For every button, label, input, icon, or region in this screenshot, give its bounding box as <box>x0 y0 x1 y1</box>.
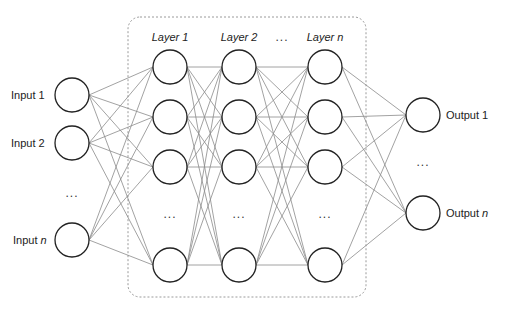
layers-ellipsis: ... <box>275 32 288 42</box>
input-node <box>55 223 89 257</box>
hidden-node-layer-3 <box>308 100 342 134</box>
output-label-n: Output n <box>446 207 488 219</box>
hidden-node-layer-3 <box>308 50 342 84</box>
hidden-node-layer-1 <box>153 50 187 84</box>
layer-label-1: Layer 1 <box>152 31 189 43</box>
connection-edge <box>342 67 406 115</box>
connection-edge <box>342 115 406 167</box>
inputs-ellipsis: ... <box>65 188 78 198</box>
layern-ellipsis: ... <box>318 209 331 219</box>
layer1-ellipsis: ... <box>163 209 176 219</box>
input-node <box>55 126 89 160</box>
input-node <box>55 78 89 112</box>
hidden-node-layer-3 <box>308 248 342 282</box>
connection-edge <box>89 67 153 95</box>
connection-edge <box>89 143 153 167</box>
output-label-1: Output 1 <box>446 109 488 121</box>
output-node <box>406 196 440 230</box>
neural-network-diagram: Input 1 Input 2 Input n ... Layer 1 Laye… <box>0 0 505 309</box>
connection-edge <box>342 67 406 213</box>
connection-edge <box>89 240 153 265</box>
connection-edge <box>342 115 406 117</box>
hidden-node-layer-1 <box>153 100 187 134</box>
hidden-node-layer-2 <box>222 248 256 282</box>
input-label-1: Input 1 <box>11 89 45 101</box>
hidden-node-layer-2 <box>222 100 256 134</box>
hidden-node-layer-3 <box>308 150 342 184</box>
connection-edge <box>342 117 406 213</box>
hidden-node-layer-2 <box>222 150 256 184</box>
hidden-node-layer-1 <box>153 248 187 282</box>
output-node <box>406 98 440 132</box>
input-label-n: Input n <box>13 234 47 246</box>
layer-label-n: Layer n <box>307 31 344 43</box>
outputs-ellipsis: ... <box>416 157 429 167</box>
layer-label-2: Layer 2 <box>221 31 258 43</box>
hidden-node-layer-2 <box>222 50 256 84</box>
layer2-ellipsis: ... <box>232 209 245 219</box>
input-label-2: Input 2 <box>11 137 45 149</box>
connection-edge <box>89 67 153 240</box>
connection-edge <box>342 115 406 265</box>
hidden-node-layer-1 <box>153 150 187 184</box>
connection-edge <box>342 213 406 265</box>
